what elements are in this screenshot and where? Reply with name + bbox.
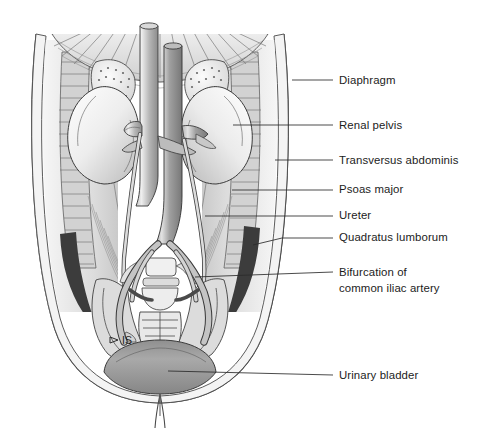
label-renal-pelvis: Renal pelvis: [339, 119, 402, 131]
label-diaphragm: Diaphragm: [339, 74, 396, 86]
label-quadratus-lumborum: Quadratus lumborum: [339, 231, 448, 243]
label-transversus-abdominis: Transversus abdominis: [339, 154, 459, 166]
is-marker-label: IS: [122, 334, 132, 346]
label-ureter: Ureter: [339, 209, 371, 221]
label-texts: Diaphragm Renal pelvis Transversus abdom…: [339, 74, 459, 381]
label-psoas-major: Psoas major: [339, 183, 404, 195]
urinary-bladder: [104, 340, 216, 428]
label-bifurcation-line2: common iliac artery: [339, 282, 440, 294]
label-urinary-bladder: Urinary bladder: [339, 369, 418, 381]
anatomical-figure: IS Diaphragm Renal pelvis Transversus ab…: [0, 0, 477, 438]
figure-canvas: IS Diaphragm Renal pelvis Transversus ab…: [0, 0, 477, 438]
label-bifurcation-line1: Bifurcation of: [339, 266, 408, 278]
